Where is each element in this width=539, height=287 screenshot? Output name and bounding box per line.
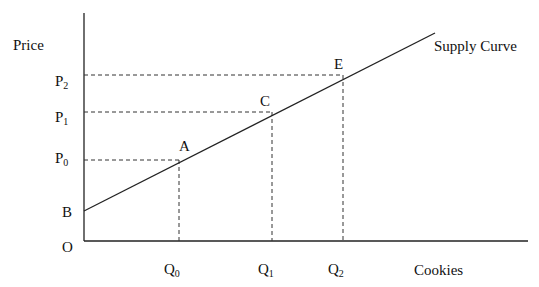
intercept-label-b: B xyxy=(62,204,72,220)
chart-canvas: Price Cookies O B Supply Curve A C E P2 … xyxy=(0,0,539,287)
y-tick-p0: P0 xyxy=(55,150,68,168)
x-tick-q1: Q1 xyxy=(258,261,274,279)
point-a-label: A xyxy=(179,138,190,154)
svg-text:Q1: Q1 xyxy=(258,261,274,279)
y-tick-p2: P2 xyxy=(55,73,68,91)
x-tick-q0: Q0 xyxy=(164,261,180,279)
supply-curve-label: Supply Curve xyxy=(434,38,517,54)
origin-label: O xyxy=(62,239,73,255)
x-tick-q2: Q2 xyxy=(328,261,344,279)
supply-curve-chart: Price Cookies O B Supply Curve A C E P2 … xyxy=(0,0,539,287)
svg-text:Q0: Q0 xyxy=(164,261,180,279)
y-axis-label: Price xyxy=(13,37,44,53)
point-e-label: E xyxy=(334,56,343,72)
svg-text:P0: P0 xyxy=(55,150,68,168)
svg-text:P2: P2 xyxy=(55,73,68,91)
svg-text:Q2: Q2 xyxy=(328,261,344,279)
x-axis-label: Cookies xyxy=(414,262,463,278)
svg-text:P1: P1 xyxy=(55,109,68,127)
point-c-label: C xyxy=(260,93,270,109)
y-tick-p1: P1 xyxy=(55,109,68,127)
supply-curve-line xyxy=(84,33,435,211)
